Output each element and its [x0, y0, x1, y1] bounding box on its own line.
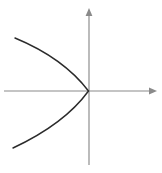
coordinate-plane-diagram — [0, 0, 162, 173]
figure-canvas — [0, 0, 162, 173]
x-axis-arrowhead-icon — [149, 88, 157, 95]
parabola-curve — [13, 38, 89, 148]
y-axis-arrowhead-icon — [86, 8, 93, 16]
